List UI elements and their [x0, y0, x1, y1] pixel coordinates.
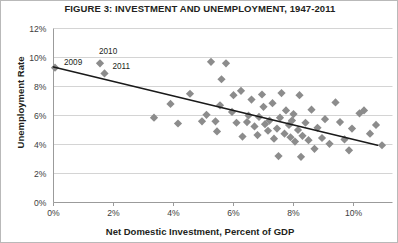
data-point [297, 153, 305, 161]
data-point [304, 136, 312, 144]
data-point [213, 127, 221, 135]
data-point [345, 146, 353, 154]
data-point [325, 140, 333, 148]
data-point [310, 145, 318, 153]
x-tick-label: 6% [227, 208, 240, 218]
point-annotations: 200920102011 [64, 47, 131, 71]
x-tick-label: 2% [107, 208, 120, 218]
figure-container: FIGURE 3: INVESTMENT AND UNEMPLOYMENT, 1… [0, 0, 398, 243]
data-point [243, 118, 251, 126]
data-point [211, 117, 219, 125]
data-point [229, 91, 237, 99]
data-points [51, 58, 386, 161]
x-tick-label: 8% [287, 208, 300, 218]
data-point [336, 118, 344, 126]
data-point [232, 119, 240, 127]
data-point [331, 98, 339, 106]
data-point [298, 132, 306, 140]
data-point [258, 90, 266, 98]
data-point [321, 115, 329, 123]
data-point [366, 130, 374, 138]
data-point [348, 124, 356, 132]
x-tick-label: 10% [345, 208, 363, 218]
data-point [277, 89, 285, 97]
data-point [301, 119, 309, 127]
data-point [174, 119, 182, 127]
y-tick-label: 8% [34, 82, 47, 92]
y-tick-label: 6% [34, 111, 47, 121]
data-point [207, 58, 215, 66]
data-point [259, 103, 267, 111]
x-tick-label: 0% [47, 208, 60, 218]
data-point [270, 135, 278, 143]
data-point [282, 106, 290, 114]
y-tick-label: 4% [34, 140, 47, 150]
y-tick-label: 10% [29, 53, 47, 63]
data-point [372, 121, 380, 129]
data-point [237, 87, 245, 95]
data-point [202, 111, 210, 119]
data-point [307, 106, 315, 114]
data-point [378, 141, 386, 149]
x-tick-labels: 0%2%4%6%8%10% [47, 208, 362, 218]
y-tick-labels: 0%2%4%6%8%10%12% [29, 24, 47, 208]
annotation-2010: 2010 [99, 47, 118, 56]
data-point [198, 117, 206, 125]
x-tick-label: 4% [167, 208, 180, 218]
data-point [238, 132, 246, 140]
data-point [253, 131, 261, 139]
data-point [273, 124, 281, 132]
data-point [289, 110, 297, 118]
data-point [96, 59, 104, 67]
y-tick-label: 2% [34, 169, 47, 179]
y-tick-label: 0% [34, 198, 47, 208]
axis-ticks [54, 203, 354, 207]
data-point [268, 99, 276, 107]
y-tick-label: 12% [29, 24, 47, 34]
data-point [318, 134, 326, 142]
annotation-2009: 2009 [64, 58, 83, 67]
annotation-2011: 2011 [113, 62, 131, 71]
data-point [217, 75, 225, 83]
data-point [250, 122, 258, 130]
data-point [295, 91, 303, 99]
scatter-plot: 0%2%4%6%8%10%12% 0%2%4%6%8%10% 200920102… [1, 1, 398, 243]
data-point [274, 152, 282, 160]
data-point [166, 100, 174, 108]
data-point [100, 69, 108, 77]
data-point [186, 90, 194, 98]
data-point [222, 59, 230, 67]
data-point [247, 95, 255, 103]
data-point [150, 114, 158, 122]
